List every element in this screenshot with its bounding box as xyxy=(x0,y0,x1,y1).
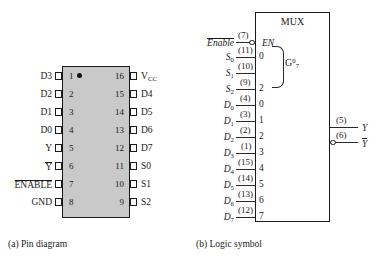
wire-d4 xyxy=(236,169,255,170)
wire-d6 xyxy=(236,201,255,202)
port-index-data-6: 6 xyxy=(259,196,264,206)
pin-ref-d6: (13) xyxy=(238,190,253,199)
pin-stub-left-7 xyxy=(55,180,62,188)
input-label-d5: D5 xyxy=(186,181,234,192)
pin-number-1: 1 xyxy=(69,72,74,81)
input-label-d4: D4 xyxy=(186,165,234,176)
input-label-d6: D6 xyxy=(186,197,234,208)
wire-d2 xyxy=(236,137,255,138)
input-label-d1: D1 xyxy=(186,117,234,128)
pin-label-vcc-text: V xyxy=(141,71,148,81)
select-group-label: G07 xyxy=(285,57,299,69)
pin-ref-s2: (9) xyxy=(240,78,251,87)
pin-ref-enable: (7) xyxy=(238,31,249,40)
pin-label-d1: D1 xyxy=(0,108,52,118)
wire-s2 xyxy=(236,89,255,90)
input-label-d1-text: D xyxy=(224,116,231,126)
pin-stub-left-4 xyxy=(55,126,62,134)
output-label-y-bar: Y xyxy=(362,138,367,149)
pin-stub-left-2 xyxy=(55,90,62,98)
pin-label-y: Y xyxy=(0,144,52,154)
pin-1-dot-icon xyxy=(77,73,82,78)
select-group-brace-icon xyxy=(272,46,284,88)
input-label-d2-sub: 2 xyxy=(231,136,234,143)
input-label-s1-sub: 1 xyxy=(231,72,234,79)
pin-number-8: 8 xyxy=(69,198,74,207)
pin-number-14: 14 xyxy=(107,108,124,117)
pin-ref-y-bar: (6) xyxy=(336,131,347,140)
output-inversion-bubble-icon xyxy=(330,140,336,146)
pin-number-11: 11 xyxy=(107,162,124,171)
pin-ref-d1: (3) xyxy=(240,110,251,119)
pin-number-6: 6 xyxy=(69,162,74,171)
pin-number-3: 3 xyxy=(69,108,74,117)
input-label-d6-text: D xyxy=(224,196,231,206)
caption-part-b: (b) Logic symbol xyxy=(196,239,262,249)
input-label-enable: Enable xyxy=(186,38,234,49)
pin-number-13: 13 xyxy=(107,126,124,135)
input-label-d1-sub: 1 xyxy=(231,120,234,127)
input-label-d0-sub: 0 xyxy=(231,104,234,111)
pin-ref-s0: (11) xyxy=(238,46,253,55)
pin-label-d6: D6 xyxy=(141,126,153,136)
port-index-data-4: 4 xyxy=(259,164,264,174)
pin-label-d0: D0 xyxy=(0,126,52,136)
pin-ref-d7: (12) xyxy=(238,206,253,215)
pin-number-9: 9 xyxy=(107,198,124,207)
wire-y xyxy=(330,127,358,128)
pin-label-vcc: VCC xyxy=(141,72,157,83)
pin-stub-left-3 xyxy=(55,108,62,116)
pin-number-4: 4 xyxy=(69,126,74,135)
pin-stub-right-14 xyxy=(130,108,137,116)
caption-part-a: (a) Pin diagram xyxy=(8,239,67,249)
input-label-d3-text: D xyxy=(224,148,231,158)
wire-s1 xyxy=(236,73,255,74)
input-label-d7-text: D xyxy=(224,212,231,222)
pin-label-d4: D4 xyxy=(141,90,153,100)
pin-stub-right-11 xyxy=(130,162,137,170)
input-label-d7-sub: 7 xyxy=(231,216,234,223)
wire-d0 xyxy=(236,105,255,106)
pin-label-y-bar: Y xyxy=(0,162,52,173)
pin-number-2: 2 xyxy=(69,90,74,99)
wire-d3 xyxy=(236,153,255,154)
input-label-d5-sub: 5 xyxy=(231,184,234,191)
pin-stub-right-15 xyxy=(130,90,137,98)
mux-title: MUX xyxy=(255,16,330,27)
pin-number-5: 5 xyxy=(69,144,74,153)
pin-label-s0: S0 xyxy=(141,162,151,172)
pin-ref-d3: (1) xyxy=(241,142,252,151)
wire-d1 xyxy=(236,121,255,122)
input-label-d3-sub: 3 xyxy=(231,152,234,159)
pin-label-y-bar-text: Y xyxy=(45,162,52,173)
input-label-s1: S1 xyxy=(186,69,234,80)
input-label-s0-sub: 0 xyxy=(231,56,234,63)
pin-stub-right-12 xyxy=(130,144,137,152)
pin-ref-d2: (2) xyxy=(240,126,251,135)
pin-stub-right-16 xyxy=(130,72,137,80)
port-index-data-1: 1 xyxy=(259,116,264,126)
input-label-d3: D3 xyxy=(186,149,234,160)
pin-stub-left-6 xyxy=(55,162,62,170)
pin-label-d5: D5 xyxy=(141,108,153,118)
output-label-y: Y xyxy=(362,123,367,133)
port-index-data-2: 2 xyxy=(259,132,264,142)
pin-label-enable-bar-text: ENABLE xyxy=(15,180,52,191)
wire-d7 xyxy=(236,217,255,218)
wire-s0 xyxy=(236,57,255,58)
input-label-d7: D7 xyxy=(186,213,234,224)
wire-d5 xyxy=(236,185,255,186)
pin-stub-right-13 xyxy=(130,126,137,134)
input-label-s2: S2 xyxy=(186,85,234,96)
pin-number-7: 7 xyxy=(69,180,74,189)
input-label-d4-sub: 4 xyxy=(231,168,234,175)
pin-label-enable-bar: ENABLE xyxy=(0,180,52,191)
pin-label-vcc-sub: CC xyxy=(148,75,157,82)
input-label-enable-text: Enable xyxy=(207,38,234,49)
input-label-d0-text: D xyxy=(224,100,231,110)
figure-root: 1 2 3 4 5 6 7 8 16 15 14 13 12 11 10 9 D… xyxy=(0,0,376,262)
pin-stub-left-8 xyxy=(55,198,62,206)
pin-ref-s1: (10) xyxy=(238,62,253,71)
input-label-d5-text: D xyxy=(224,180,231,190)
pin-label-s1: S1 xyxy=(141,180,151,190)
